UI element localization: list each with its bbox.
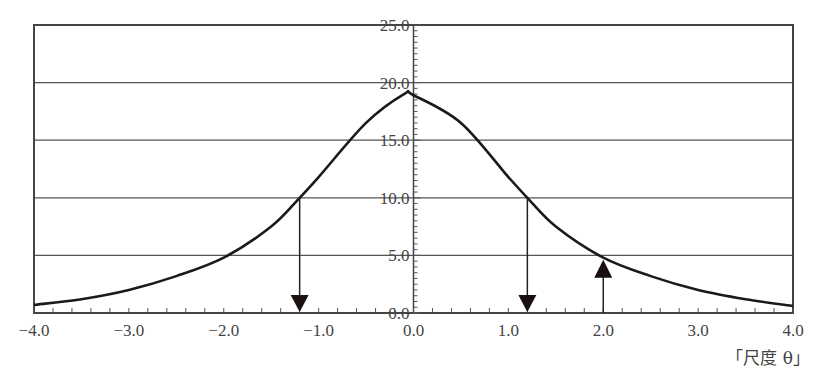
y-tick-label: 15.0 — [380, 131, 410, 150]
y-tick-label: 5.0 — [388, 246, 409, 265]
x-tick-label: 0.0 — [403, 321, 424, 340]
x-tick-label: 2.0 — [593, 321, 614, 340]
x-axis-title: 「尺度 θ」 — [726, 344, 810, 369]
arrow-up-icon — [594, 260, 612, 313]
x-tick-label: −1.0 — [303, 321, 334, 340]
x-tick-label: 4.0 — [782, 321, 803, 340]
y-tick-label: 10.0 — [380, 189, 410, 208]
x-tick-label: −4.0 — [19, 321, 50, 340]
x-tick-label: 1.0 — [498, 321, 519, 340]
y-axis: 0.05.010.015.020.025.0 — [380, 16, 421, 323]
chart-canvas: 0.05.010.015.020.025.0 −4.0−3.0−2.0−1.00… — [0, 0, 816, 386]
y-tick-label: 25.0 — [380, 16, 410, 35]
x-tick-label: 3.0 — [688, 321, 709, 340]
x-tick-label: −3.0 — [113, 321, 144, 340]
y-tick-label: 20.0 — [380, 74, 410, 93]
x-tick-label: −2.0 — [208, 321, 239, 340]
